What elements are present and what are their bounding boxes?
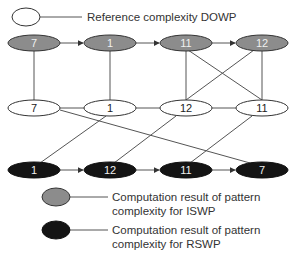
legend-iswp-ellipse-icon [42, 188, 70, 206]
dowp-node-3: 12 [160, 100, 212, 116]
iswp-node-1-value: 7 [31, 37, 37, 49]
dowp-node-4-value: 11 [256, 102, 267, 114]
rswp-node-3: 11 [160, 162, 212, 178]
iswp-node-4: 12 [236, 35, 288, 51]
rswp-node-1-value: 1 [31, 164, 37, 176]
rswp-node-4-value: 7 [259, 164, 265, 176]
rswp-node-2: 12 [84, 162, 136, 178]
legend-dowp-ellipse-icon [12, 8, 40, 26]
dowp-node-4: 11 [236, 100, 288, 116]
rswp-node-1: 1 [8, 162, 60, 178]
edges-middle-to-bottom [40, 110, 252, 163]
iswp-node-1: 7 [8, 35, 60, 51]
legend-dowp: Reference complexity DOWP [12, 8, 237, 26]
dowp-node-2: 1 [84, 100, 136, 116]
rswp-node-4: 7 [236, 162, 288, 178]
pattern-complexity-diagram: Reference complexity DOWP 7 [0, 0, 298, 253]
legend-rswp: Computation result of pattern complexity… [42, 221, 260, 250]
dowp-node-1: 7 [8, 100, 60, 116]
iswp-node-4-value: 12 [256, 37, 268, 49]
iswp-node-3: 11 [160, 35, 212, 51]
legend-dowp-label: Reference complexity DOWP [87, 11, 237, 23]
dowp-node-3-value: 12 [180, 102, 192, 114]
dowp-node-1-value: 7 [31, 102, 37, 114]
iswp-node-2: 1 [84, 35, 136, 51]
legend-rswp-label-line1: Computation result of pattern [112, 224, 260, 236]
legend-rswp-ellipse-icon [42, 221, 70, 239]
legend-iswp-label-line2: complexity for ISWP [112, 205, 216, 217]
dowp-node-2-value: 1 [107, 102, 113, 114]
edges-top-to-middle [34, 50, 262, 100]
legend-iswp: Computation result of pattern complexity… [42, 188, 260, 217]
rswp-node-3-value: 11 [180, 164, 191, 176]
iswp-node-2-value: 1 [107, 37, 113, 49]
rswp-node-2-value: 12 [104, 164, 116, 176]
iswp-node-3-value: 11 [180, 37, 191, 49]
legend-iswp-label-line1: Computation result of pattern [112, 191, 260, 203]
legend-rswp-label-line2: complexity for RSWP [112, 238, 221, 250]
